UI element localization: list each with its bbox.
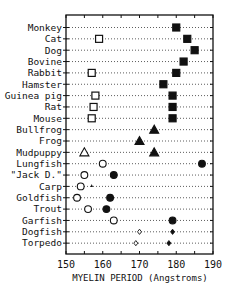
open-circle-marker <box>81 172 88 179</box>
filled-square-marker <box>173 69 180 76</box>
open-circle-marker <box>99 160 106 167</box>
filled-square-marker <box>160 81 167 88</box>
row-label: "Jack D." <box>11 169 62 180</box>
x-tick-label: 180 <box>167 259 185 270</box>
x-tick-label: 190 <box>204 259 222 270</box>
x-tick-label: 150 <box>57 259 75 270</box>
open-circle-marker <box>85 206 92 213</box>
open-diamond-marker <box>138 229 142 234</box>
open-square-marker <box>88 69 95 76</box>
filled-square-marker <box>180 58 187 65</box>
filled-square-marker <box>184 35 191 42</box>
row-label: Rat <box>45 101 62 112</box>
x-tick-label: 170 <box>130 259 148 270</box>
row-label: Mouse <box>33 113 62 124</box>
open-triangle-marker <box>80 148 89 156</box>
row-label: Bullfrog <box>16 124 62 135</box>
filled-circle-marker <box>110 172 117 179</box>
row-label: Rabbit <box>28 67 62 78</box>
filled-square-marker <box>173 24 180 31</box>
row-label: Monkey <box>28 22 63 33</box>
filled-square-marker <box>169 103 176 110</box>
filled-circle-marker <box>107 194 114 201</box>
filled-circle-marker <box>103 206 110 213</box>
open-square-marker <box>90 103 97 110</box>
row-label: Frog <box>39 135 62 146</box>
open-square-marker <box>92 92 99 99</box>
row-label: Cat <box>45 33 62 44</box>
small-mark-marker <box>90 184 93 187</box>
data-points <box>74 24 206 246</box>
row-label: Trout <box>33 203 62 214</box>
row-label: Dog <box>45 45 62 56</box>
filled-triangle-marker <box>150 125 159 133</box>
row-label: Torpedo <box>22 237 62 248</box>
filled-circle-marker <box>199 160 206 167</box>
row-label: Hamster <box>22 79 62 90</box>
row-label: Bovine <box>28 56 63 67</box>
x-tick-label: 160 <box>94 259 112 270</box>
row-label: Dogfish <box>22 226 62 237</box>
x-axis-label: MYELIN PERIOD (Angstroms) <box>72 273 207 283</box>
myelin-period-chart: 150160170180190 MonkeyCatDogBovineRabbit… <box>0 0 225 289</box>
open-circle-marker <box>77 183 84 190</box>
open-square-marker <box>88 115 95 122</box>
row-label: Lungfish <box>16 158 62 169</box>
filled-square-marker <box>169 115 176 122</box>
row-label: Carp <box>39 181 62 192</box>
open-circle-marker <box>110 217 117 224</box>
filled-circle-marker <box>169 217 176 224</box>
open-circle-marker <box>74 194 81 201</box>
filled-square-marker <box>169 92 176 99</box>
filled-triangle-marker <box>135 137 144 145</box>
filled-diamond-marker <box>167 241 171 246</box>
y-axis-labels: MonkeyCatDogBovineRabbitHamsterGuinea pi… <box>5 22 62 249</box>
row-label: Guinea pig <box>5 90 62 101</box>
row-label: Garfish <box>22 215 62 226</box>
filled-triangle-marker <box>150 148 159 156</box>
open-diamond-marker <box>134 241 138 246</box>
row-label: Mudpuppy <box>16 147 62 158</box>
open-square-marker <box>96 35 103 42</box>
filled-diamond-marker <box>171 229 175 234</box>
filled-square-marker <box>191 47 198 54</box>
row-label: Goldfish <box>16 192 62 203</box>
